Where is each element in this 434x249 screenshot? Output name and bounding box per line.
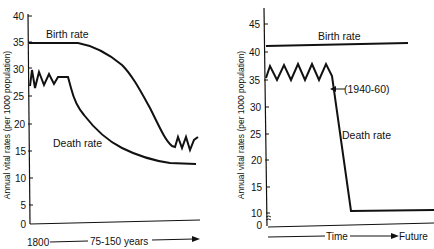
left-ytick-35: 35 xyxy=(13,37,25,48)
left-ytick-5: 5 xyxy=(20,200,26,211)
right-death-rate-label: Death rate xyxy=(342,129,391,141)
right-x-future-label: Future xyxy=(399,231,428,242)
right-ytick-0: 0 xyxy=(256,220,262,231)
right-ytick-15: 15 xyxy=(251,182,263,193)
right-x-time-label: Time xyxy=(326,231,348,242)
right-ytick-25: 25 xyxy=(250,129,262,140)
left-x-span-label: 75-150 years xyxy=(90,236,148,247)
demographic-transition-charts: 40 35 30 25 20 15 10 5 0 Annual vital ra… xyxy=(0,0,434,249)
left-ytick-40: 40 xyxy=(13,11,25,22)
right-x-axis xyxy=(268,223,434,227)
left-x-arrowhead-icon xyxy=(192,236,200,242)
left-x-start-label: 1800 xyxy=(27,237,50,248)
left-birth-rate-line xyxy=(29,43,198,150)
left-birth-rate-label: Birth rate xyxy=(46,28,89,40)
right-ytick-20: 20 xyxy=(251,155,263,166)
left-ytick-25: 25 xyxy=(13,91,25,102)
right-ytick-45: 45 xyxy=(249,19,261,30)
left-y-axis xyxy=(28,14,30,224)
right-chart: 45 40 35 30 25 20 15 10 0 Annual vital r… xyxy=(236,8,434,242)
right-period-label: (1940-60) xyxy=(344,83,390,95)
left-x-axis xyxy=(30,220,200,224)
left-ytick-10: 10 xyxy=(15,173,27,184)
left-x-arrow-line-1 xyxy=(50,241,88,242)
left-death-rate-line xyxy=(30,70,196,164)
left-death-rate-label: Death rate xyxy=(53,137,102,149)
left-ytick-20: 20 xyxy=(14,119,26,130)
left-y-label: Annual vital rates (per 1000 population) xyxy=(2,51,12,200)
right-y-label: Annual vital rates (per 1000 population) xyxy=(236,51,246,200)
right-ytick-40: 40 xyxy=(249,47,261,58)
left-ytick-0: 0 xyxy=(20,219,26,230)
left-chart: 40 35 30 25 20 15 10 5 0 Annual vital ra… xyxy=(2,11,200,248)
right-ytick-30: 30 xyxy=(250,102,262,113)
left-x-arrow-line-2 xyxy=(152,239,194,240)
right-birth-rate-line xyxy=(266,43,408,46)
left-ytick-30: 30 xyxy=(13,64,25,75)
right-birth-rate-label: Birth rate xyxy=(318,30,361,42)
right-ytick-10: 10 xyxy=(251,208,263,219)
right-ytick-35: 35 xyxy=(249,75,261,86)
right-x-arrow-line-1 xyxy=(268,236,325,237)
left-ytick-15: 15 xyxy=(15,146,27,157)
right-y-axis xyxy=(264,8,267,226)
right-x-arrowhead-icon xyxy=(391,233,399,239)
